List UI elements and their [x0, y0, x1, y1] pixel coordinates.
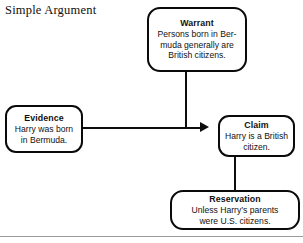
node-evidence-heading: Evidence	[24, 113, 63, 124]
page-title: Simple Argument	[5, 3, 96, 17]
node-reservation-heading: Reservation	[209, 194, 260, 205]
node-evidence-line-2: in Bermuda.	[21, 135, 67, 146]
node-warrant-line-1: Persons born in Ber-	[158, 29, 237, 40]
node-reservation[interactable]: Reservation Unless Harry’s parents were …	[170, 190, 300, 230]
edge-claim-to-reservation-line	[234, 155, 236, 192]
node-evidence-line-1: Harry was born	[15, 124, 73, 135]
edge-warrant-to-inference-line	[185, 70, 187, 128]
node-claim-line-2: citizen.	[243, 142, 270, 153]
node-claim-line-1: Harry is a British	[225, 131, 288, 142]
node-reservation-line-1: Unless Harry’s parents	[192, 205, 279, 216]
diagram-canvas: Simple Argument Warrant Persons born in …	[0, 0, 303, 243]
node-warrant[interactable]: Warrant Persons born in Ber- muda genera…	[147, 7, 247, 72]
node-warrant-heading: Warrant	[180, 18, 214, 29]
node-evidence[interactable]: Evidence Harry was born in Bermuda.	[5, 105, 83, 153]
node-claim[interactable]: Claim Harry is a British citizen.	[218, 115, 295, 157]
node-claim-heading: Claim	[244, 120, 268, 131]
node-reservation-line-2: were U.S. citizens.	[199, 216, 270, 227]
bottom-divider	[0, 236, 303, 237]
node-warrant-line-2: muda generally are	[160, 40, 234, 51]
arrowhead-right-icon	[200, 122, 209, 132]
node-warrant-line-3: British citizens.	[168, 50, 225, 61]
